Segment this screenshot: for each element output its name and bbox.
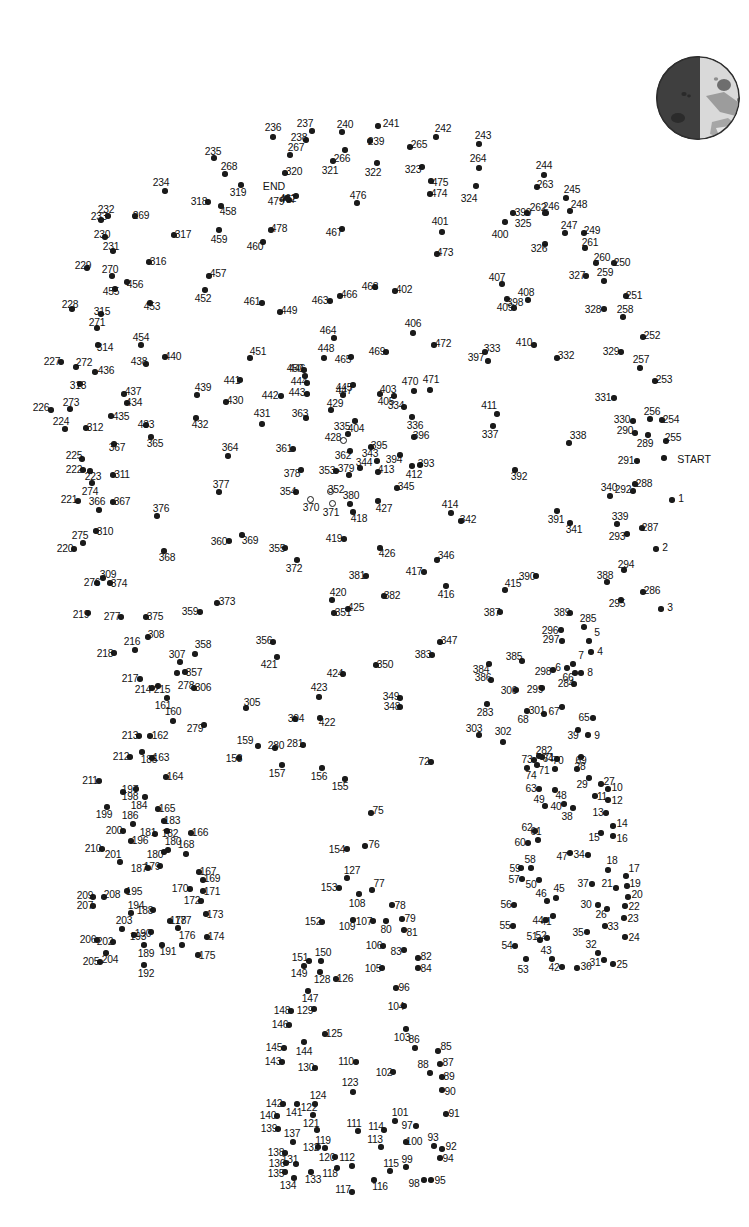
dot-number-label: 241 bbox=[383, 119, 399, 129]
dot-number-label: 320 bbox=[286, 167, 302, 177]
dot-number-label: 391 bbox=[548, 515, 564, 525]
dot-number-label: 76 bbox=[369, 840, 380, 850]
puzzle-dot bbox=[549, 956, 554, 961]
dot-number-label: 432 bbox=[192, 420, 208, 430]
dot-number-label: 386 bbox=[475, 673, 491, 683]
dot-number-label: 356 bbox=[256, 636, 272, 646]
dot-number-label: 294 bbox=[618, 560, 634, 570]
puzzle-dot bbox=[362, 843, 367, 848]
dot-number-label: 142 bbox=[266, 1099, 282, 1109]
puzzle-dot bbox=[574, 766, 579, 771]
dot-number-label: 465 bbox=[335, 355, 351, 365]
dot-number-label: 438 bbox=[131, 357, 147, 367]
dot-number-label: 208 bbox=[104, 890, 120, 900]
puzzle-dot bbox=[552, 766, 557, 771]
puzzle-dot bbox=[528, 865, 533, 870]
dot-number-label: 461 bbox=[244, 297, 260, 307]
dot-number-label: 151 bbox=[292, 953, 308, 963]
dot-number-label: 38 bbox=[562, 812, 573, 822]
dot-number-label: 282 bbox=[536, 746, 552, 756]
dot-number-label: 270 bbox=[102, 265, 118, 275]
puzzle-dot bbox=[392, 1118, 397, 1123]
puzzle-dot bbox=[653, 546, 658, 551]
dot-number-label: 252 bbox=[644, 331, 660, 341]
dot-number-label: 199 bbox=[96, 810, 112, 820]
dot-number-label: 242 bbox=[435, 124, 451, 134]
dot-number-label: 382 bbox=[384, 591, 400, 601]
dot-number-label: 288 bbox=[636, 479, 652, 489]
dot-number-label: 103 bbox=[394, 1033, 410, 1043]
dot-number-label: 132 bbox=[303, 1143, 319, 1153]
puzzle-dot bbox=[610, 833, 615, 838]
dot-number-label: 433 bbox=[138, 420, 154, 430]
dot-number-label: 297 bbox=[543, 635, 559, 645]
dot-number-label: 7 bbox=[578, 651, 583, 661]
dot-number-label: 91 bbox=[449, 1109, 460, 1119]
puzzle-dot bbox=[532, 828, 537, 833]
puzzle-dot bbox=[595, 950, 600, 955]
dot-number-label: 427 bbox=[376, 504, 392, 514]
puzzle-dot bbox=[192, 651, 197, 656]
puzzle-dot bbox=[605, 867, 610, 872]
dot-number-label: 45 bbox=[554, 884, 565, 894]
dot-number-label: 435 bbox=[113, 412, 129, 422]
dot-number-label: 377 bbox=[213, 480, 229, 490]
dot-number-label: 304 bbox=[288, 714, 304, 724]
dot-number-label: 418 bbox=[351, 514, 367, 524]
dot-number-label: 129 bbox=[297, 1006, 313, 1016]
dot-number-label: 367 bbox=[114, 497, 130, 507]
dot-number-label: 414 bbox=[442, 500, 458, 510]
puzzle-dot bbox=[476, 165, 481, 170]
dot-number-label: 113 bbox=[367, 1135, 383, 1145]
puzzle-dot bbox=[413, 1123, 418, 1128]
puzzle-dot bbox=[132, 647, 137, 652]
dot-number-label: 137 bbox=[284, 1129, 300, 1139]
dot-number-label: 224 bbox=[53, 417, 69, 427]
dot-number-label: 337 bbox=[482, 430, 498, 440]
dot-number-label: 364 bbox=[222, 443, 238, 453]
dot-number-label: 67 bbox=[549, 707, 560, 717]
dot-number-label: 52 bbox=[536, 931, 547, 941]
dot-number-label: 14 bbox=[617, 819, 628, 829]
dot-number-label: 17 bbox=[629, 864, 640, 874]
dot-number-label: 39 bbox=[568, 731, 579, 741]
puzzle-dot bbox=[559, 704, 564, 709]
dot-number-label: 74 bbox=[526, 771, 537, 781]
puzzle-dot bbox=[634, 458, 639, 463]
dot-number-label: 98 bbox=[409, 1179, 420, 1189]
puzzle-dot bbox=[519, 876, 524, 881]
dot-number-label: 26 bbox=[596, 910, 607, 920]
dot-number-label: 327 bbox=[569, 271, 585, 281]
dot-number-label: 58 bbox=[525, 855, 536, 865]
dot-number-label: 20 bbox=[632, 890, 643, 900]
dot-number-label: 15 bbox=[589, 833, 600, 843]
dot-number-label: 73 bbox=[522, 755, 533, 765]
puzzle-dot bbox=[476, 141, 481, 146]
puzzle-dot bbox=[613, 885, 618, 890]
puzzle-dot bbox=[349, 1163, 354, 1168]
dot-number-label: 329 bbox=[603, 347, 619, 357]
dot-number-label: 233 bbox=[91, 212, 107, 222]
dot-number-label: 449 bbox=[281, 306, 297, 316]
puzzle-dot bbox=[356, 891, 361, 896]
dot-number-label: 285 bbox=[580, 614, 596, 624]
dot-number-label: 310 bbox=[97, 527, 113, 537]
dot-number-label: 62 bbox=[522, 823, 533, 833]
puzzle-dot bbox=[321, 355, 326, 360]
dot-to-dot-canvas: 1234567891011121314151617181920212223242… bbox=[0, 0, 749, 1227]
dot-number-label: 40 bbox=[551, 802, 562, 812]
dot-number-label: 44 bbox=[533, 916, 544, 926]
dot-number-label: 166 bbox=[192, 828, 208, 838]
dot-number-label: 46 bbox=[536, 889, 547, 899]
dot-number-label: 92 bbox=[446, 1142, 457, 1152]
dot-number-label: 99 bbox=[402, 1155, 413, 1165]
dot-number-label: 204 bbox=[102, 955, 118, 965]
puzzle-dot bbox=[578, 670, 583, 675]
dot-number-label: 60 bbox=[515, 838, 526, 848]
dot-number-label: 124 bbox=[310, 1091, 326, 1101]
puzzle-dot bbox=[174, 670, 179, 675]
puzzle-dot bbox=[621, 915, 626, 920]
puzzle-dot bbox=[96, 507, 101, 512]
puzzle-dot bbox=[330, 158, 335, 163]
dot-number-label: 269 bbox=[133, 211, 149, 221]
